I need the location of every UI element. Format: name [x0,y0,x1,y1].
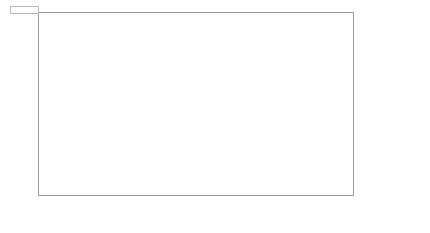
chart-legend [10,6,39,14]
series-lines [39,13,353,195]
plot-area [38,12,354,196]
chart-figure [0,0,430,233]
